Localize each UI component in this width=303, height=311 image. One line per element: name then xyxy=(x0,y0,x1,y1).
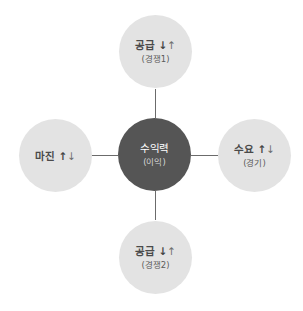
profitability-diagram: 공급 ↓↑ (경쟁1) 마진 ↑↓ 수익력 (이익) 수요 ↑↓ (경기) 공급… xyxy=(0,0,303,311)
node-title-text: 수요 xyxy=(234,143,254,155)
arrow-down-icon: ↓ xyxy=(158,245,167,257)
node-subtitle: (경기) xyxy=(243,157,266,169)
node-title: 마진 ↑↓ xyxy=(35,149,75,163)
arrow-up-icon: ↑ xyxy=(58,150,67,162)
node-supply-competition-2: 공급 ↓↑ (경쟁2) xyxy=(119,221,192,294)
connector-right xyxy=(191,155,218,156)
center-title: 수익력 xyxy=(140,141,169,155)
node-title-text: 공급 xyxy=(135,245,155,257)
arrow-down-icon: ↓ xyxy=(67,150,76,162)
connector-top xyxy=(155,89,156,118)
node-title: 공급 ↓↑ xyxy=(135,244,175,258)
arrow-down-icon: ↓ xyxy=(158,39,167,51)
connector-left xyxy=(91,155,118,156)
arrow-up-icon: ↑ xyxy=(257,143,266,155)
arrow-up-icon: ↑ xyxy=(167,39,176,51)
connector-bottom xyxy=(155,191,156,220)
node-margin: 마진 ↑↓ xyxy=(19,119,92,192)
node-subtitle: (경쟁1) xyxy=(141,53,169,65)
node-title-text: 공급 xyxy=(135,39,155,51)
node-supply-competition-1: 공급 ↓↑ (경쟁1) xyxy=(119,15,192,88)
node-title-text: 마진 xyxy=(35,150,55,162)
node-title: 공급 ↓↑ xyxy=(135,38,175,52)
center-subtitle: (이익) xyxy=(143,156,166,168)
arrow-down-icon: ↓ xyxy=(266,143,275,155)
node-title: 수요 ↑↓ xyxy=(234,142,274,156)
node-subtitle: (경쟁2) xyxy=(141,259,169,271)
node-demand-economy: 수요 ↑↓ (경기) xyxy=(218,119,291,192)
arrow-up-icon: ↑ xyxy=(167,245,176,257)
node-profitability-center: 수익력 (이익) xyxy=(118,118,191,191)
